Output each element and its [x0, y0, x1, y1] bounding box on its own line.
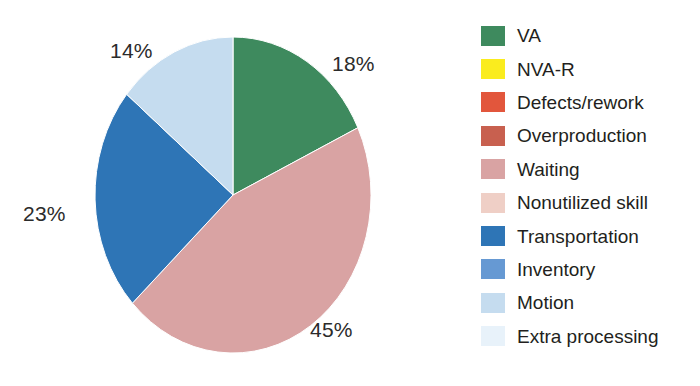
legend-label-overproduction: Overproduction — [517, 125, 647, 146]
legend-item-motion[interactable]: Motion — [481, 286, 696, 319]
legend-item-extra-processing[interactable]: Extra processing — [481, 320, 696, 353]
legend-swatch-inventory — [481, 259, 505, 279]
legend-item-nonutilized-skill[interactable]: Nonutilized skill — [481, 186, 696, 219]
legend-label-nonutilized-skill: Nonutilized skill — [517, 192, 648, 213]
pie-label-waiting-percent: 45% — [310, 319, 353, 340]
pie-label-va-percent: 18% — [332, 53, 375, 74]
chart-legend: VANVA-RDefects/reworkOverproductionWaiti… — [481, 19, 696, 353]
legend-swatch-waiting — [481, 159, 505, 179]
pie-label-motion-percent: 14% — [110, 40, 153, 61]
pie-svg — [0, 0, 466, 386]
legend-item-va[interactable]: VA — [481, 19, 696, 52]
legend-label-transportation: Transportation — [517, 226, 639, 247]
legend-item-inventory[interactable]: Inventory — [481, 253, 696, 286]
legend-item-transportation[interactable]: Transportation — [481, 219, 696, 252]
legend-swatch-overproduction — [481, 126, 505, 146]
legend-item-waiting[interactable]: Waiting — [481, 153, 696, 186]
legend-swatch-motion — [481, 293, 505, 313]
legend-item-overproduction[interactable]: Overproduction — [481, 119, 696, 152]
legend-label-inventory: Inventory — [517, 259, 595, 280]
pie-slices-group — [95, 37, 371, 353]
legend-item-nva-r[interactable]: NVA-R — [481, 52, 696, 85]
legend-label-waiting: Waiting — [517, 159, 580, 180]
legend-swatch-nva-r — [481, 59, 505, 79]
legend-swatch-extra-processing — [481, 326, 505, 346]
legend-swatch-defects-rework — [481, 92, 505, 112]
legend-swatch-transportation — [481, 226, 505, 246]
legend-label-defects-rework: Defects/rework — [517, 92, 644, 113]
pie-label-transportation-percent: 23% — [23, 203, 66, 224]
pie-chart-figure: 18% 45% 23% 14% VANVA-RDefects/reworkOve… — [0, 0, 700, 386]
legend-label-nva-r: NVA-R — [517, 59, 575, 80]
legend-label-va: VA — [517, 25, 541, 46]
legend-label-extra-processing: Extra processing — [517, 326, 659, 347]
pie-plot-area — [0, 0, 466, 386]
legend-swatch-nonutilized-skill — [481, 193, 505, 213]
legend-swatch-va — [481, 26, 505, 46]
legend-item-defects-rework[interactable]: Defects/rework — [481, 86, 696, 119]
legend-label-motion: Motion — [517, 292, 574, 313]
